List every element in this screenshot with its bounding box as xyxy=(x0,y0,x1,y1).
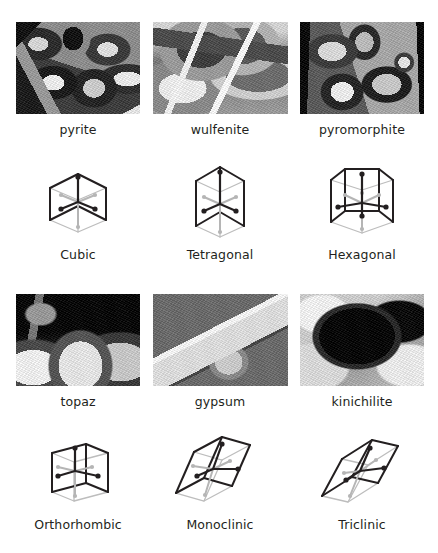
tetragonal-front-axes xyxy=(204,172,236,211)
figure-cell-topaz: topaz xyxy=(8,294,148,409)
orthorhombic-unit-cell xyxy=(28,428,128,512)
caption-wrap-cubic: Cubic xyxy=(8,244,148,263)
tetragonal-unit-cell xyxy=(170,158,270,242)
monoclinic-visible-edges xyxy=(176,437,250,493)
figure-cell-orthorhombic: Orthorhombic xyxy=(8,428,148,533)
kinichilite-photo xyxy=(300,294,424,386)
caption-wrap-triclinic: Triclinic xyxy=(292,514,432,533)
caption-wrap-hexagonal: Hexagonal xyxy=(292,244,432,263)
caption-kinichilite: kinichilite xyxy=(292,394,432,409)
figure-cell-monoclinic: Monoclinic xyxy=(150,428,290,533)
figure-cell-pyromorphite: pyromorphite xyxy=(292,22,432,137)
caption-gypsum: gypsum xyxy=(150,394,290,409)
caption-orthorhombic: Orthorhombic xyxy=(34,517,122,532)
caption-wulfenite: wulfenite xyxy=(150,122,290,137)
figure-cell-tetragonal: Tetragonal xyxy=(150,158,290,263)
wulfenite-photo xyxy=(153,22,288,114)
monoclinic-hidden-edges xyxy=(176,445,250,501)
caption-monoclinic: Monoclinic xyxy=(186,517,253,532)
figure-cell-gypsum: gypsum xyxy=(150,294,290,409)
figure-cell-pyrite: pyrite xyxy=(8,22,148,137)
figure-cell-wulfenite: wulfenite xyxy=(150,22,290,137)
triclinic-visible-edges xyxy=(322,440,398,496)
caption-wrap-tetragonal: Tetragonal xyxy=(150,244,290,263)
hexagonal-unit-cell xyxy=(307,158,417,242)
caption-pyrite: pyrite xyxy=(8,122,148,137)
caption-topaz: topaz xyxy=(8,394,148,409)
caption-hexagonal: Hexagonal xyxy=(328,247,395,262)
orthorhombic-front-axes xyxy=(58,448,98,476)
caption-cubic: Cubic xyxy=(60,247,95,262)
triclinic-unit-cell xyxy=(306,428,418,512)
caption-tetragonal: Tetragonal xyxy=(187,247,254,262)
monoclinic-unit-cell xyxy=(164,428,276,512)
topaz-photo xyxy=(16,294,140,386)
caption-triclinic: Triclinic xyxy=(338,517,385,532)
figure-cell-cubic: Cubic xyxy=(8,158,148,263)
figure-cell-kinichilite: kinichilite xyxy=(292,294,432,409)
cubic-unit-cell xyxy=(28,158,128,242)
pyromorphite-photo xyxy=(300,22,424,114)
caption-wrap-monoclinic: Monoclinic xyxy=(150,514,290,533)
gypsum-photo xyxy=(153,294,288,386)
figure-cell-triclinic: Triclinic xyxy=(292,428,432,533)
figure-cell-hexagonal: Hexagonal xyxy=(292,158,432,263)
caption-wrap-orthorhombic: Orthorhombic xyxy=(8,514,148,533)
pyrite-photo xyxy=(16,22,140,114)
caption-pyromorphite: pyromorphite xyxy=(292,122,432,137)
figure-sheet: pyrite wulfenite pyromorphite xyxy=(0,0,438,553)
